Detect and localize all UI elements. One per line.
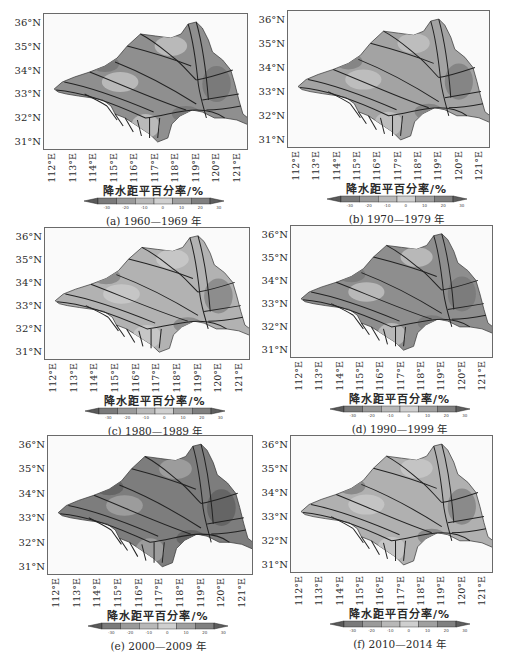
x-tick-label: 119°E [433, 151, 443, 181]
y-tick-label: 33°N [13, 513, 45, 523]
x-tick-label: 119°E [191, 153, 201, 183]
colorbar-tick-label: -20 [365, 203, 372, 208]
y-tick-label: 31°N [13, 562, 45, 572]
y-tick-label: 34°N [13, 489, 45, 499]
colorbar [88, 622, 228, 630]
x-tick-label: 116°E [372, 151, 382, 181]
y-tick-label: 36°N [9, 18, 41, 28]
y-tick-label: 32°N [13, 538, 45, 548]
y-tick-label: 35°N [10, 255, 42, 265]
anomaly-region [348, 494, 384, 514]
x-tick-label: 115°E [352, 151, 362, 181]
basin-map [288, 11, 489, 147]
x-tick-label: 113°E [314, 361, 324, 391]
x-tick-label: 121°E [232, 153, 242, 183]
x-tick-label: 121°E [234, 363, 244, 393]
colorbar-ticks: -30-20-100102030 [85, 415, 225, 420]
x-tick-label: 120°E [457, 361, 467, 391]
x-tick-label: 120°E [213, 363, 223, 393]
map-frame [47, 435, 253, 575]
x-tick-label: 117°E [150, 153, 160, 183]
colorbar-tick-label: 30 [462, 413, 467, 418]
anomaly-region [418, 529, 446, 545]
anomaly-region [103, 284, 140, 303]
x-tick-label: 113°E [68, 153, 78, 183]
x-tick-label: 114°E [89, 363, 99, 393]
anomaly-region [102, 72, 139, 92]
colorbar-tick-label: 10 [425, 413, 430, 418]
x-tick-label: 115°E [355, 576, 365, 606]
colorbar-title: 降水距平百分率/% [300, 390, 500, 406]
colorbar-ticks: -30-20-100102030 [88, 630, 228, 635]
colorbar-ticks: -30-20-100102030 [330, 628, 470, 633]
colorbar-tick-label: 20 [441, 203, 446, 208]
x-tick-label: 118°E [170, 153, 180, 183]
panel-caption: (d) 1990—1999 年 [300, 421, 500, 436]
basin-map [291, 436, 492, 572]
x-tick-label: 117°E [396, 576, 406, 606]
y-tick-label: 34°N [256, 276, 288, 286]
y-tick-label: 31°N [253, 135, 285, 145]
colorbar-title: 降水距平百分率/% [54, 182, 254, 198]
x-tick-label: 120°E [216, 578, 226, 608]
x-tick-label: 120°E [211, 153, 221, 183]
x-tick-label: 120°E [457, 576, 467, 606]
y-tick-label: 36°N [13, 440, 45, 450]
y-tick-label: 31°N [9, 137, 41, 147]
anomaly-region [348, 282, 384, 301]
x-tick-label: 112°E [47, 153, 57, 183]
colorbar-tick-label: 0 [408, 413, 411, 418]
colorbar [85, 407, 225, 415]
colorbar-tick-label: -30 [350, 413, 357, 418]
colorbar-tick-label: 20 [444, 413, 449, 418]
y-tick-label: 33°N [9, 89, 41, 99]
x-tick-label: 113°E [69, 363, 79, 393]
x-tick-label: 113°E [72, 578, 82, 608]
y-tick-label: 35°N [253, 39, 285, 49]
x-tick-label: 117°E [393, 151, 403, 181]
x-tick-label: 115°E [109, 153, 119, 183]
basin-map [44, 14, 247, 149]
x-tick-label: 121°E [477, 361, 487, 391]
x-tick-label: 116°E [129, 153, 139, 183]
y-tick-label: 33°N [253, 87, 285, 97]
colorbar-title: 降水距平百分率/% [300, 605, 500, 621]
y-tick-label: 35°N [256, 253, 288, 263]
y-tick-label: 33°N [256, 512, 288, 522]
colorbar-tick-label: -20 [368, 628, 375, 633]
basin-map [291, 226, 492, 357]
x-tick-label: 121°E [237, 578, 247, 608]
anomaly-region [106, 495, 143, 515]
colorbar-tick-label: 30 [459, 203, 464, 208]
y-tick-label: 34°N [9, 66, 41, 76]
anomaly-region [177, 530, 206, 546]
colorbar-tick-label: 20 [198, 205, 203, 210]
colorbar-tick-label: -20 [368, 413, 375, 418]
x-tick-label: 113°E [314, 576, 324, 606]
x-tick-label: 112°E [294, 361, 304, 391]
map-frame [290, 225, 493, 358]
y-tick-label: 33°N [10, 301, 42, 311]
colorbar-tick-label: 10 [179, 205, 184, 210]
y-tick-label: 31°N [10, 347, 42, 357]
x-tick-label: 119°E [193, 363, 203, 393]
colorbar [84, 197, 224, 205]
colorbar-tick-label: 30 [218, 415, 223, 420]
y-tick-label: 31°N [256, 560, 288, 570]
colorbar-tick-label: 0 [408, 628, 411, 633]
x-tick-label: 116°E [375, 576, 385, 606]
colorbar-tick-label: -10 [387, 413, 394, 418]
x-tick-label: 118°E [416, 576, 426, 606]
x-tick-label: 117°E [151, 363, 161, 393]
y-tick-label: 32°N [9, 113, 41, 123]
map-panel-a: 36°N35°N34°N33°N32°N31°N112°E113°E114°E1… [0, 0, 256, 220]
basin-map [45, 228, 249, 359]
colorbar-tick-label: 20 [199, 415, 204, 420]
anomaly-region [415, 104, 443, 120]
colorbar-tick-label: -10 [142, 415, 149, 420]
y-tick-label: 32°N [253, 111, 285, 121]
colorbar-tick-label: 0 [162, 205, 165, 210]
colorbar-tick-label: 10 [183, 630, 188, 635]
x-tick-label: 121°E [477, 576, 487, 606]
colorbar-tick-label: -20 [124, 415, 131, 420]
